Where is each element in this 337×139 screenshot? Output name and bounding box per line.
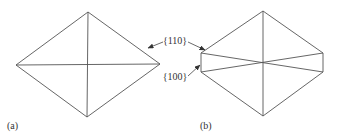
truncated-outline bbox=[201, 11, 323, 116]
arrow-110-left bbox=[148, 42, 163, 48]
arrow-110-right bbox=[188, 42, 205, 50]
label-100: {100} bbox=[163, 71, 188, 82]
arrow-100 bbox=[188, 65, 200, 76]
annotation-110: {110} bbox=[148, 35, 205, 50]
panel-a-octahedron bbox=[16, 12, 160, 117]
panel-label-a: (a) bbox=[7, 120, 18, 132]
octahedron-horizontal-axis bbox=[16, 64, 160, 65]
annotation-100: {100} bbox=[163, 65, 200, 82]
panel-b-truncated-octahedron bbox=[201, 11, 323, 116]
label-110: {110} bbox=[163, 35, 187, 46]
panel-label-b: (b) bbox=[200, 120, 212, 132]
crystal-habit-figure: {110} {100} (a) (b) bbox=[0, 0, 337, 139]
